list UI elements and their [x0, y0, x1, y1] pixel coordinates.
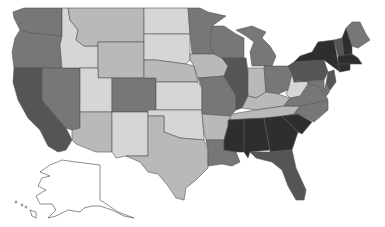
state-SD[interactable]: [144, 34, 190, 64]
state-KS[interactable]: [156, 82, 202, 110]
state-AK[interactable]: [36, 160, 134, 218]
state-HI-island: [21, 204, 23, 206]
state-CT[interactable]: [338, 64, 350, 72]
state-MA[interactable]: [338, 54, 362, 64]
state-OR[interactable]: [12, 30, 62, 68]
state-HI-island: [15, 201, 17, 203]
state-FL[interactable]: [250, 150, 306, 200]
state-NM[interactable]: [112, 112, 148, 158]
state-PA[interactable]: [288, 60, 328, 82]
state-ND[interactable]: [144, 8, 190, 34]
state-CO[interactable]: [112, 78, 156, 112]
state-MT[interactable]: [68, 8, 144, 46]
state-HI-island: [25, 206, 27, 208]
state-HI[interactable]: [30, 210, 36, 218]
us-choropleth-map: [0, 0, 385, 227]
state-WY[interactable]: [98, 42, 144, 78]
